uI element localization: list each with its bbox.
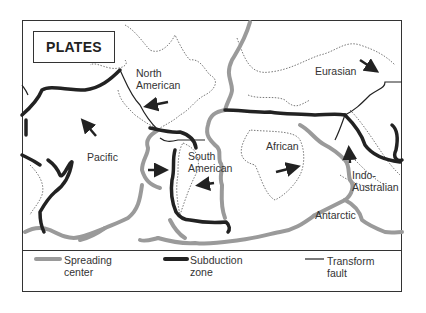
- legend-divider: [22, 250, 402, 251]
- plate-label-african: African: [266, 140, 299, 152]
- plate-label-indo-australian: Indo-Australian: [352, 169, 399, 193]
- legend-item-transform-fault: Transformfault: [327, 255, 374, 279]
- title-box: PLATES: [33, 31, 115, 63]
- plate-label-eurasian: Eurasian: [315, 65, 356, 77]
- plate-label-south-american: SouthAmerican: [188, 150, 232, 174]
- plate-label-pacific: Pacific: [87, 151, 118, 163]
- transform-faults: [22, 70, 402, 141]
- plate-label-north-american: NorthAmerican: [136, 67, 180, 91]
- map-title: PLATES: [46, 39, 102, 55]
- legend-item-subduction-zone: Subductionzone: [190, 254, 243, 278]
- legend-item-spreading-center: Spreadingcenter: [64, 254, 112, 278]
- plate-label-antarctic: Antarctic: [315, 209, 356, 221]
